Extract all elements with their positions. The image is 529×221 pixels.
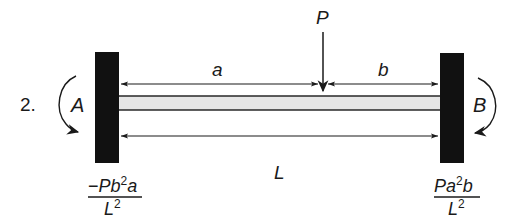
right-denominator-L: L [448,199,458,219]
dimension-a-label: a [212,59,223,80]
right-numerator-b: b [463,176,473,196]
problem-number: 2. [20,94,36,115]
left-denominator-L: L [104,199,114,219]
fixed-beam-diagram: 2. A B a b P L −Pb2a L2 Pa2b [0,0,529,221]
right-moment-label: B [473,94,486,116]
dimension-L-label: L [274,162,285,183]
left-numerator-P: P [99,176,111,196]
beam [111,96,446,110]
left-numerator-a: a [127,176,137,196]
left-moment-label: A [70,94,84,116]
left-fixed-support [95,52,119,163]
right-numerator-P: P [434,176,446,196]
left-denominator-exp: 2 [114,197,121,211]
left-numerator-b: b [111,176,121,196]
svg-text:L2: L2 [448,197,465,219]
svg-text:L2: L2 [104,197,121,219]
dimension-b-label: b [378,59,389,80]
right-reaction-formula: Pa2b L2 [434,174,480,219]
svg-text:Pa2b: Pa2b [434,174,473,196]
right-numerator-a: a [446,176,456,196]
right-fixed-support [440,53,464,163]
right-denominator-exp: 2 [458,197,465,211]
svg-text:−Pb2a: −Pb2a [88,174,137,196]
left-numerator-sign: − [88,176,99,196]
left-reaction-formula: −Pb2a L2 [88,174,142,219]
load-label: P [316,7,329,28]
